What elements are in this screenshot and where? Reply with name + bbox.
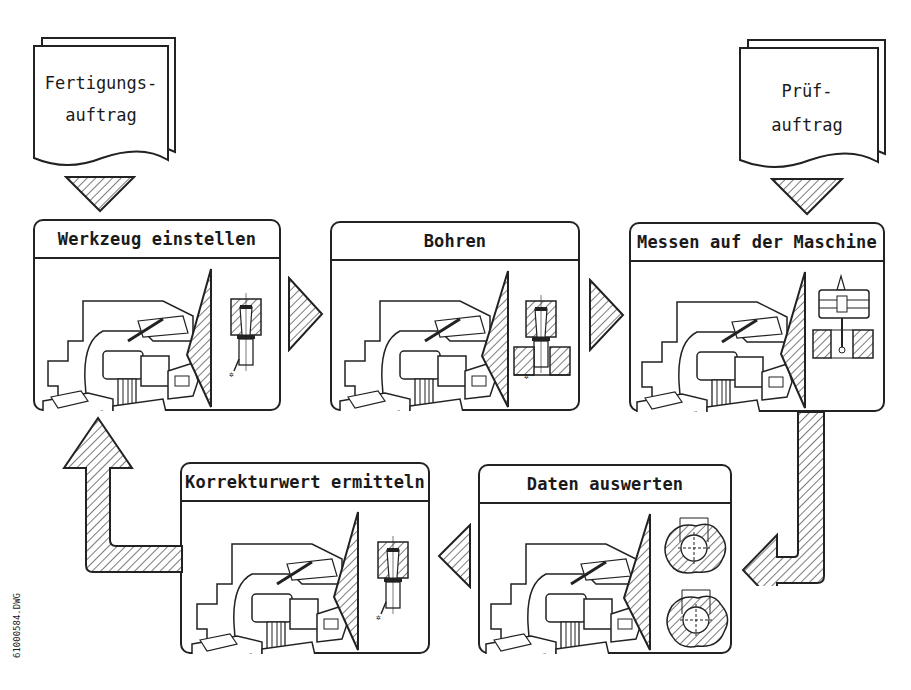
arrow-down-icon — [64, 175, 136, 213]
step-title: Daten auswerten — [480, 466, 730, 504]
measuring-probe-icon — [813, 276, 873, 358]
document-label-line1: Fertigungs- — [28, 68, 174, 98]
step-werkzeug-einstellen: Werkzeug einstellen — [33, 219, 281, 411]
arrow-right-icon — [287, 276, 325, 352]
tool-holder-icon — [376, 536, 408, 622]
drilling-icon — [514, 295, 570, 381]
bore-profile-icon — [667, 590, 728, 647]
arrow-up-left-icon — [60, 416, 184, 574]
arrow-left-icon — [437, 523, 473, 589]
step-korrekturwert-ermitteln: Korrekturwert ermitteln — [180, 462, 430, 654]
machine-illustration-icon — [35, 259, 279, 411]
step-title: Bohren — [332, 223, 578, 261]
document-fertigungsauftrag: Fertigungs- auftrag — [32, 36, 178, 170]
tool-holder-icon — [229, 293, 261, 379]
drawing-code-text: 61000584.DWG — [12, 593, 22, 658]
arrow-down-left-icon — [735, 410, 835, 586]
arrow-down-icon — [770, 177, 844, 217]
document-shape-icon — [738, 38, 888, 174]
document-pruefauftrag: Prüf- auftrag — [738, 38, 888, 174]
step-messen-auf-der-maschine: Messen auf der Maschine — [629, 222, 885, 412]
step-daten-auswerten: Daten auswerten — [478, 464, 732, 654]
document-label-line2: auftrag — [28, 100, 174, 130]
machine-illustration-icon — [332, 261, 578, 411]
step-title: Korrekturwert ermitteln — [182, 464, 428, 502]
document-label-line2: auftrag — [732, 110, 882, 140]
step-bohren: Bohren — [330, 221, 580, 411]
step-title: Messen auf der Maschine — [631, 224, 883, 262]
document-label-line1: Prüf- — [732, 76, 882, 106]
arrow-right-icon — [588, 278, 626, 352]
machine-illustration-icon — [480, 504, 730, 654]
bore-profile-icon — [665, 518, 726, 573]
drawing-code: 61000584.DWG — [12, 568, 24, 658]
machine-illustration-icon — [631, 262, 883, 412]
step-title: Werkzeug einstellen — [35, 221, 279, 259]
machine-illustration-icon — [182, 502, 428, 654]
